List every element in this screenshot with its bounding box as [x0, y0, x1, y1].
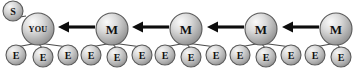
node-end-2-label: E	[65, 50, 72, 61]
node-end-6[interactable]: E	[155, 45, 175, 65]
node-sender[interactable]: S	[3, 1, 23, 21]
node-end-9[interactable]: E	[230, 45, 250, 65]
arrow-head	[207, 22, 218, 33]
node-end-4[interactable]: E	[107, 47, 127, 67]
node-end-0[interactable]: E	[6, 45, 26, 65]
node-you[interactable]: YOU	[22, 13, 54, 45]
node-end-7[interactable]: E	[181, 47, 201, 67]
node-end-11[interactable]: E	[281, 45, 301, 65]
node-m4[interactable]: M	[320, 13, 352, 45]
diagram-canvas: EEEEEEEEEEEEEESYOUMMMM	[0, 0, 361, 78]
node-end-5[interactable]: E	[132, 45, 152, 65]
arrow-m4-to-m3	[282, 22, 319, 33]
node-end-1[interactable]: E	[33, 47, 53, 67]
node-m4-label: M	[330, 22, 342, 37]
node-m2-label: M	[180, 22, 192, 37]
node-m1-label: M	[106, 22, 118, 37]
node-end-9-label: E	[237, 50, 244, 61]
arrow-m1-to-you	[58, 22, 95, 33]
node-end-6-label: E	[162, 50, 169, 61]
arrow-head	[282, 22, 293, 33]
arrow-m3-to-m2	[207, 22, 244, 33]
node-link-graph: EEEEEEEEEEEEEESYOUMMMM	[0, 0, 361, 78]
node-end-11-label: E	[288, 50, 295, 61]
node-end-13[interactable]: E	[331, 47, 351, 67]
arrow-head	[132, 22, 143, 33]
arrow-head	[58, 22, 69, 33]
node-end-10[interactable]: E	[256, 47, 276, 67]
node-end-5-label: E	[139, 50, 146, 61]
node-m2[interactable]: M	[170, 13, 202, 45]
node-end-10-label: E	[263, 52, 270, 63]
node-end-0-label: E	[13, 50, 20, 61]
node-end-8[interactable]: E	[206, 45, 226, 65]
node-sender-label: S	[10, 6, 16, 17]
node-m3[interactable]: M	[245, 13, 277, 45]
node-m3-label: M	[255, 22, 267, 37]
node-end-3[interactable]: E	[81, 45, 101, 65]
node-end-1-label: E	[40, 52, 47, 63]
node-end-4-label: E	[114, 52, 121, 63]
node-end-3-label: E	[88, 50, 95, 61]
node-m1[interactable]: M	[96, 13, 128, 45]
node-end-2[interactable]: E	[58, 45, 78, 65]
node-end-7-label: E	[188, 52, 195, 63]
node-you-label: YOU	[29, 25, 48, 34]
node-end-8-label: E	[213, 50, 220, 61]
node-layer: EEEEEEEEEEEEEESYOUMMMM	[3, 1, 352, 67]
node-end-12-label: E	[312, 50, 319, 61]
arrow-m2-to-m1	[132, 22, 169, 33]
node-end-12[interactable]: E	[305, 45, 325, 65]
node-end-13-label: E	[338, 52, 345, 63]
